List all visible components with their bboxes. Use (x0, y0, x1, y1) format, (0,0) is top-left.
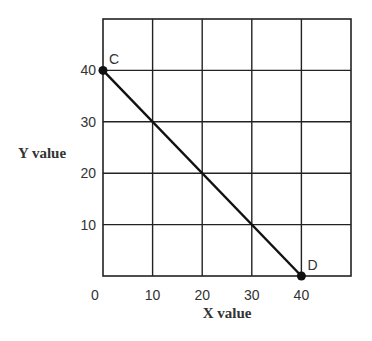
grid (103, 19, 351, 276)
y-tick-labels: 10203040 (80, 62, 96, 232)
data-point (99, 66, 108, 75)
x-tick-labels: 010203040 (91, 287, 309, 303)
y-tick-label: 20 (80, 165, 96, 181)
series: CD (99, 51, 318, 280)
x-tick-label: 30 (244, 287, 260, 303)
plot-frame (103, 19, 351, 276)
y-tick-label: 30 (80, 114, 96, 130)
y-tick-label: 40 (80, 62, 96, 78)
chart: 010203040 10203040 CD X value Y value (0, 0, 372, 341)
y-axis-label: Y value (18, 145, 67, 161)
x-tick-label: 10 (145, 287, 161, 303)
x-tick-label: 0 (91, 287, 99, 303)
point-label: C (109, 51, 119, 67)
point-label: D (307, 257, 317, 273)
x-axis-label: X value (203, 305, 252, 321)
x-tick-label: 20 (194, 287, 210, 303)
y-tick-label: 10 (80, 217, 96, 233)
data-point (297, 272, 306, 281)
x-tick-label: 40 (294, 287, 310, 303)
